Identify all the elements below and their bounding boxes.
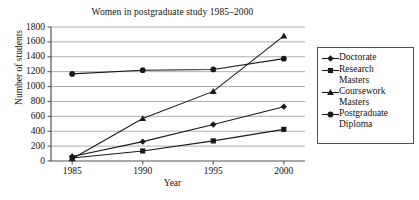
y-tick-label: 1200 xyxy=(11,66,45,76)
legend-item-research-masters[interactable]: Research Masters xyxy=(322,64,410,86)
legend-item-label: Doctorate xyxy=(339,52,376,63)
x-tick-label: 1990 xyxy=(123,166,163,176)
x-axis-title: Year xyxy=(40,178,305,189)
legend-item-coursework-masters[interactable]: Coursework Masters xyxy=(322,86,410,108)
legend-circle-marker-icon xyxy=(322,109,339,120)
legend-item-label: Coursework Masters xyxy=(339,86,385,108)
chart-figure: Women in postgraduate study 1985–2000 Nu… xyxy=(0,0,419,200)
marker-triangle xyxy=(280,33,287,39)
series-line-1 xyxy=(72,129,284,158)
marker-circle xyxy=(210,67,216,73)
x-tick-label: 2000 xyxy=(264,166,304,176)
y-tick-label: 600 xyxy=(11,111,45,121)
y-tick-label: 200 xyxy=(11,141,45,151)
marker-square xyxy=(281,127,286,132)
legend-square-marker-icon xyxy=(322,65,339,76)
marker-circle xyxy=(69,71,75,77)
series-line-2 xyxy=(72,36,284,159)
legend-triangle-marker-icon xyxy=(322,87,339,98)
legend-item-doctorate[interactable]: Doctorate xyxy=(322,52,410,64)
marker-circle xyxy=(140,67,146,73)
marker-diamond xyxy=(281,103,287,109)
legend-item-label: Postgraduate Diploma xyxy=(339,108,388,130)
y-tick-label: 1400 xyxy=(11,51,45,61)
chart-legend: DoctorateResearch MastersCoursework Mast… xyxy=(317,47,414,144)
y-tick-label: 1600 xyxy=(11,36,45,46)
y-tick-label: 0 xyxy=(11,156,45,166)
marker-diamond xyxy=(210,121,216,127)
legend-diamond-marker-icon xyxy=(322,53,339,64)
x-tick-label: 1985 xyxy=(52,166,92,176)
marker-circle xyxy=(281,56,287,62)
legend-item-label: Research Masters xyxy=(339,64,374,86)
y-tick-label: 1000 xyxy=(11,81,45,91)
y-tick-label: 1800 xyxy=(11,22,45,32)
legend-item-postgraduate-diploma[interactable]: Postgraduate Diploma xyxy=(322,108,410,130)
marker-square xyxy=(211,138,216,143)
y-tick-label: 800 xyxy=(11,96,45,106)
marker-square xyxy=(140,148,145,153)
y-tick-label: 400 xyxy=(11,126,45,136)
marker-diamond xyxy=(140,138,146,144)
x-tick-label: 1995 xyxy=(193,166,233,176)
